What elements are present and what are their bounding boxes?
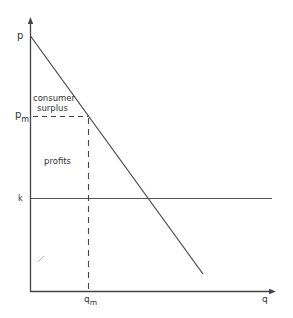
y-axis bbox=[28, 17, 33, 292]
k-label: k bbox=[18, 194, 23, 203]
profits-label: profits bbox=[44, 156, 72, 166]
x-axis-arrow-icon bbox=[269, 289, 276, 294]
pm-label-sub: m bbox=[21, 115, 29, 124]
x-axis bbox=[30, 289, 276, 294]
qm-label: qm bbox=[84, 294, 97, 307]
scan-artifact bbox=[38, 256, 44, 262]
consumer-surplus-label-1: consumer bbox=[33, 93, 76, 103]
q-axis-label: q bbox=[262, 294, 268, 304]
y-axis-arrow-icon bbox=[28, 17, 33, 24]
consumer-surplus-label-2: surplus bbox=[37, 103, 68, 113]
pm-label: pm bbox=[15, 109, 29, 124]
monopoly-diagram: p pm k consumer surplus profits qm q bbox=[0, 0, 293, 318]
demand-line bbox=[31, 36, 204, 274]
p-intercept-label: p bbox=[17, 30, 23, 41]
qm-label-sub: m bbox=[90, 298, 97, 307]
